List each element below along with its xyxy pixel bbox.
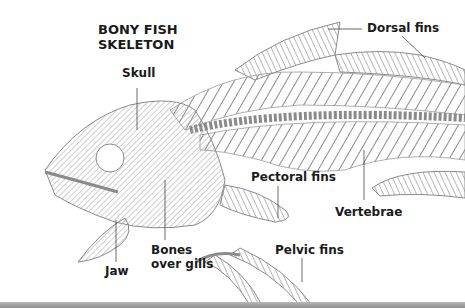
fish-skeleton-diagram: BONY FISH SKELETON Skull Dorsal fins Pec… [0, 0, 465, 308]
diagram-title-line2: SKELETON [98, 37, 174, 53]
skull [45, 101, 225, 228]
bottom-border-strip [0, 302, 465, 308]
label-vertebrae: Vertebrae [335, 205, 402, 219]
lower-jaw [78, 218, 129, 262]
label-skull: Skull [122, 66, 155, 80]
label-bones-over-gills-line1: Bones [151, 243, 192, 257]
label-bones-over-gills-line2: over gills [151, 257, 213, 271]
label-dorsal-fins: Dorsal fins [367, 21, 439, 35]
label-pelvic-fins: Pelvic fins [275, 243, 344, 257]
label-pectoral-fins: Pectoral fins [251, 170, 336, 184]
fish-skeleton-illustration [0, 0, 465, 308]
diagram-title-line1: BONY FISH [98, 22, 178, 38]
ribs [200, 122, 465, 172]
label-jaw: Jaw [105, 264, 129, 278]
anal-fin [372, 171, 465, 198]
dorsal-fin-front [235, 22, 340, 80]
